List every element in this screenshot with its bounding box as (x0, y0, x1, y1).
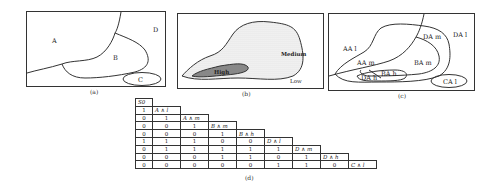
caption-b: (b) (242, 90, 251, 97)
matrix-cell: 0 (136, 122, 153, 130)
matrix-column-header: A ∧ l (153, 106, 181, 114)
matrix-row: 1 1 1 0 0 D ∧ l (136, 137, 377, 145)
matrix-cell: 0 (153, 122, 181, 130)
matrix-row: 0 1 A ∧ m (136, 114, 377, 122)
matrix-column-header: B ∧ h (237, 130, 265, 138)
matrix-cell: 0 (209, 137, 237, 145)
matrix-cell: 0 (136, 114, 153, 122)
matrix-cell: 1 (153, 145, 181, 153)
matrix-cell: 1 (209, 153, 237, 161)
matrix-row: 0 0 1 B ∧ m (136, 122, 377, 130)
panel-a-region-map: A B C D (26, 11, 166, 87)
matrix-cell: 0 (181, 130, 209, 138)
region-label-da-l: DA l (453, 31, 467, 39)
region-label-b: B (113, 54, 118, 62)
matrix-cell: 1 (237, 153, 265, 161)
region-boundaries-a: A B C D (27, 12, 165, 86)
matrix-row: 0 0 0 0 0 1 1 0 C ∧ l (136, 161, 377, 169)
level-label-medium: Medium (281, 51, 307, 57)
matrix-cell: 0 (321, 161, 349, 169)
caption-c: (c) (398, 92, 406, 99)
matrix-column-header: D ∧ h (321, 153, 349, 161)
matrix-cell: 1 (153, 137, 181, 145)
matrix-column-header: D ∧ m (293, 145, 321, 153)
matrix-column-header: D ∧ l (265, 137, 293, 145)
matrix-cell: 1 (265, 161, 293, 169)
matrix-cell: 0 (237, 161, 265, 169)
matrix-cell: 1 (181, 145, 209, 153)
matrix-corner-label: S0 (136, 99, 153, 107)
matrix-cell: 1 (136, 137, 153, 145)
region-label-da-m: DA m (423, 33, 441, 41)
matrix-row: S0 (136, 99, 377, 107)
matrix-cell: 1 (293, 153, 321, 161)
matrix-cell: 0 (136, 161, 153, 169)
level-label-low: Low (290, 78, 302, 84)
matrix-cell: 1 (237, 145, 265, 153)
matrix-cell: 1 (209, 130, 237, 138)
matrix-column-header: A ∧ m (181, 114, 209, 122)
matrix-cell: 0 (153, 161, 181, 169)
region-label-ca-l: CA l (443, 78, 457, 86)
matrix-cell: 0 (136, 130, 153, 138)
matrix-cell: 1 (293, 161, 321, 169)
region-label-aa-m: AA m (356, 59, 375, 67)
matrix-cell: 0 (237, 137, 265, 145)
matrix-cell: 1 (153, 114, 181, 122)
region-label-aa-l: AA l (342, 45, 357, 53)
matrix-cell: 0 (153, 153, 181, 161)
relation-matrix: S0 1 A ∧ l 0 1 A ∧ m 0 0 1 B ∧ m 0 0 0 1… (135, 98, 377, 169)
matrix-cell: 1 (181, 137, 209, 145)
panel-c-combined-map: AA l AA m BA m BA h DA h DA m DA l CA l (328, 13, 475, 91)
region-label-d: D (153, 26, 158, 34)
matrix-cell: 0 (181, 161, 209, 169)
matrix-cell: 0 (153, 130, 181, 138)
combined-boundaries-c: AA l AA m BA m BA h DA h DA m DA l CA l (329, 14, 474, 90)
matrix-row: 0 0 0 1 B ∧ h (136, 130, 377, 138)
matrix-cell: 0 (265, 153, 293, 161)
region-label-ba-h: BA h (381, 70, 397, 78)
matrix-row: 0 1 1 1 1 1 D ∧ m (136, 145, 377, 153)
region-label-a: A (51, 37, 57, 45)
matrix-cell: 0 (209, 161, 237, 169)
level-boundaries-b: High Medium Low (178, 14, 323, 88)
matrix-column-header: C ∧ l (349, 161, 377, 169)
panel-b-level-map: High Medium Low (177, 13, 324, 89)
region-label-ba-m: BA m (414, 59, 432, 67)
caption-d: (d) (245, 174, 254, 181)
matrix-row: 0 0 0 1 1 0 1 D ∧ h (136, 153, 377, 161)
matrix-column-header: B ∧ m (209, 122, 237, 130)
matrix-cell: 1 (136, 106, 153, 114)
matrix-row: 1 A ∧ l (136, 106, 377, 114)
matrix-cell: 0 (136, 145, 153, 153)
matrix-cell: 1 (209, 145, 237, 153)
region-label-da-h: DA h (361, 74, 377, 82)
region-label-c: C (138, 76, 143, 84)
matrix-cell: 0 (136, 153, 153, 161)
matrix-cell: 1 (265, 145, 293, 153)
level-label-high: High (214, 69, 229, 76)
matrix-cell: 1 (181, 122, 209, 130)
matrix-cell: 0 (181, 153, 209, 161)
caption-a: (a) (90, 88, 98, 95)
